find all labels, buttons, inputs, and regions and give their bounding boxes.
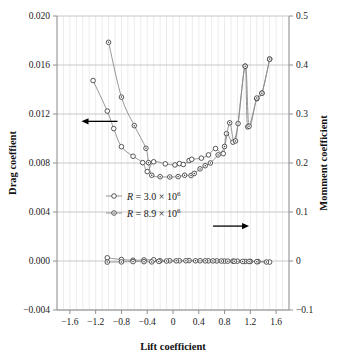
data-point-center <box>184 175 186 177</box>
y2-tick-label: 0.5 <box>296 11 308 21</box>
x-tick-label: −1.6 <box>61 317 78 327</box>
data-point-center <box>210 162 212 164</box>
y2-tick-label: 0 <box>296 256 301 266</box>
data-point-center <box>159 176 161 178</box>
legend-exponent: 6 <box>177 190 181 198</box>
legend-value: = 8.9 × 10 <box>133 208 177 219</box>
data-point-marker <box>199 156 204 161</box>
y-axis-title: Drag coeffient <box>7 131 18 195</box>
legend-marker-center <box>113 212 115 214</box>
data-point-marker <box>111 126 116 131</box>
legend-marker <box>112 194 117 199</box>
data-point-center <box>212 260 214 262</box>
data-point-center <box>256 97 258 99</box>
y2-axis-title: Momment coefficient <box>318 115 329 211</box>
x-tick-label: 1.2 <box>244 317 256 327</box>
x-tick-label: −1.2 <box>87 317 104 327</box>
chart-canvas: −1.6−1.2−0.8−0.400.40.81.21.6 0.0200.016… <box>0 0 339 360</box>
data-point-center <box>199 168 201 170</box>
x-tick-labels: −1.6−1.2−0.8−0.400.40.81.21.6 <box>61 317 282 327</box>
data-point-marker <box>119 144 124 149</box>
data-point-center <box>227 260 229 262</box>
data-point-marker <box>221 151 226 156</box>
y-tick-label: 0.012 <box>29 109 51 119</box>
data-point-center <box>145 148 147 150</box>
data-point-center <box>229 122 231 124</box>
data-point-center <box>195 260 197 262</box>
data-point-center <box>185 260 187 262</box>
data-point-marker <box>91 78 96 83</box>
data-point-center <box>175 260 177 262</box>
legend-symbol: R <box>126 208 133 219</box>
data-point-marker <box>213 146 218 151</box>
data-point-center <box>121 96 123 98</box>
data-point-center <box>204 165 206 167</box>
data-point-center <box>244 65 246 67</box>
x-tick-label: 0.8 <box>219 317 231 327</box>
data-point-center <box>151 175 153 177</box>
data-point-marker <box>181 162 186 167</box>
y2-tick-label: 0.4 <box>296 60 308 70</box>
y-tick-label: 0.004 <box>29 207 51 217</box>
y2-tick-label: 0.2 <box>296 158 308 168</box>
data-point-center <box>107 261 109 263</box>
x-tick-label: 0 <box>171 317 176 327</box>
data-point-center <box>177 176 179 178</box>
y2-tick-labels: 0.50.40.30.20.10−0.1 <box>296 11 313 315</box>
data-point-center <box>132 261 134 263</box>
data-point-center <box>221 260 223 262</box>
data-point-center <box>269 58 271 60</box>
data-point-marker <box>131 154 136 159</box>
data-point-center <box>204 260 206 262</box>
y2-tick-label: 0.1 <box>296 207 308 217</box>
x-tick-label: −0.4 <box>139 317 156 327</box>
data-point-center <box>224 146 226 148</box>
x-tick-label: 1.6 <box>270 317 282 327</box>
legend-value: = 3.0 × 10 <box>133 191 177 202</box>
data-point-center <box>266 261 268 263</box>
data-point-center <box>143 261 145 263</box>
data-point-center <box>194 173 196 175</box>
data-point-center <box>134 125 136 127</box>
data-point-marker <box>145 169 150 174</box>
y-tick-label: −0.004 <box>23 305 50 315</box>
data-point-center <box>169 176 171 178</box>
data-point-marker <box>105 109 110 114</box>
data-point-center <box>121 261 123 263</box>
y-tick-label: 0.016 <box>29 60 51 70</box>
data-point-center <box>217 154 219 156</box>
legend-exponent: 6 <box>177 207 181 215</box>
data-point-center <box>108 42 110 44</box>
y2-tick-label: −0.1 <box>296 305 313 315</box>
data-point-center <box>248 126 250 128</box>
x-axis-title: Lift coefficient <box>140 341 206 352</box>
data-point-center <box>166 260 168 262</box>
legend-symbol: R <box>126 191 133 202</box>
data-point-marker <box>151 159 156 164</box>
y-tick-label: 0.020 <box>29 11 51 21</box>
data-point-center <box>242 261 244 263</box>
data-point-center <box>248 261 250 263</box>
data-point-center <box>190 175 192 177</box>
x-tick-label: 0.4 <box>193 317 205 327</box>
y-tick-label: 0.000 <box>29 256 51 266</box>
y-tick-label: 0.008 <box>29 158 51 168</box>
data-point-center <box>261 92 263 94</box>
data-point-center <box>151 261 153 263</box>
y2-tick-label: 0.3 <box>296 109 308 119</box>
y-tick-labels: 0.0200.0160.0120.0080.0040.000−0.004 <box>23 11 50 315</box>
data-point-center <box>256 261 258 263</box>
legend-label: R = 8.9 × 106 <box>126 207 181 219</box>
data-point-center <box>158 261 160 263</box>
data-point-center <box>235 140 237 142</box>
data-point-center <box>233 260 235 262</box>
chart-figure: −1.6−1.2−0.8−0.400.40.81.21.6 0.0200.016… <box>0 0 339 360</box>
data-point-marker <box>173 163 178 168</box>
data-point-marker <box>140 160 145 165</box>
data-point-marker <box>206 153 211 158</box>
data-point-center <box>148 162 150 164</box>
data-point-marker <box>189 157 194 162</box>
legend-label: R = 3.0 × 106 <box>126 190 181 202</box>
data-point-marker <box>163 162 168 167</box>
x-tick-label: −0.8 <box>113 317 130 327</box>
